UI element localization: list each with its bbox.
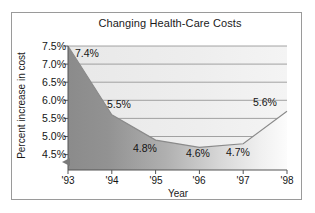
chart-figure: Changing Health-Care Costs Percent incre… bbox=[0, 0, 315, 213]
y-tick-label: 5.5% bbox=[42, 112, 66, 124]
x-tick-label: '95 bbox=[141, 175, 171, 186]
chart-title: Changing Health-Care Costs bbox=[60, 17, 280, 29]
y-tick-label: 7.5% bbox=[42, 40, 66, 52]
y-tick-label: 6.0% bbox=[42, 94, 66, 106]
x-tick-marks bbox=[68, 170, 287, 174]
y-tick-label: 4.5% bbox=[42, 148, 66, 160]
y-tick-label: 6.5% bbox=[42, 76, 66, 88]
x-tick-label: '93 bbox=[53, 175, 83, 186]
data-label: 4.6% bbox=[186, 147, 210, 159]
data-label: 5.6% bbox=[253, 96, 277, 108]
x-tick-label: '96 bbox=[184, 175, 214, 186]
data-label: 4.7% bbox=[226, 146, 250, 158]
x-tick-label: '97 bbox=[228, 175, 258, 186]
y-tick-label: 5.0% bbox=[42, 130, 66, 142]
data-label: 7.4% bbox=[75, 47, 99, 59]
x-axis-title: Year bbox=[68, 188, 288, 199]
x-tick-label: '98 bbox=[272, 175, 302, 186]
y-tick-label: 7.0% bbox=[42, 58, 66, 70]
x-tick-label: '94 bbox=[97, 175, 127, 186]
data-label: 4.8% bbox=[133, 142, 157, 154]
data-label: 5.5% bbox=[107, 98, 131, 110]
